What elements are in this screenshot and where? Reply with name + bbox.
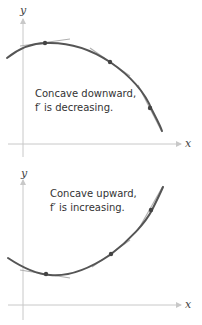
tangent-point-3 (148, 106, 152, 110)
caption-line-1: Concave downward, (35, 88, 136, 99)
x-axis-label: x (185, 137, 192, 150)
tangent-point-2 (109, 252, 113, 256)
y-axis-label: y (20, 167, 28, 180)
caption-line-1: Concave upward, (50, 188, 137, 199)
graph-concave-upward: y x Concave upward, f′ is increasing. (8, 167, 192, 320)
caption-line-2: f′ is increasing. (50, 202, 125, 213)
concave-up-curve (8, 187, 163, 275)
tangent-point-1 (44, 272, 48, 276)
tangent-point-3 (149, 208, 153, 212)
x-axis-label: x (185, 298, 192, 311)
concavity-diagram: y x Concave downward, f′ is decreasing. … (0, 0, 202, 325)
y-axis-label: y (19, 4, 27, 17)
tangent-point-2 (108, 60, 112, 64)
graph-concave-downward: y x Concave downward, f′ is decreasing. (7, 4, 192, 157)
concave-down-curve (7, 43, 162, 131)
tangent-point-1 (43, 41, 47, 45)
caption-line-2: f′ is decreasing. (35, 102, 113, 113)
